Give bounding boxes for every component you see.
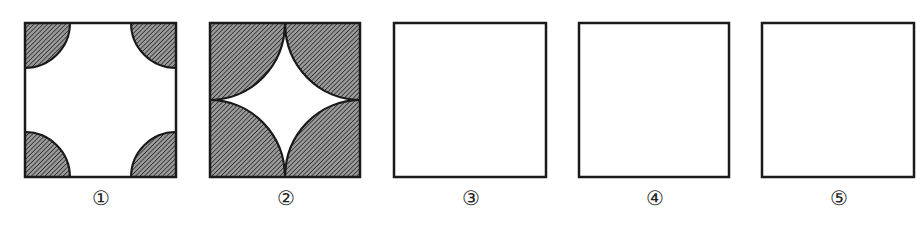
figure-label-5: ⑤ xyxy=(760,186,918,210)
figure-panel-4: ④ xyxy=(577,0,737,229)
figure-label-3: ③ xyxy=(392,186,550,210)
square-figure-3 xyxy=(392,21,550,179)
figure-panel-3: ③ xyxy=(392,0,552,229)
figure-panel-5: ⑤ xyxy=(760,0,920,229)
figure-label-4: ④ xyxy=(577,186,733,210)
square-figure-4 xyxy=(577,21,733,179)
figure-label-1: ① xyxy=(23,186,179,210)
square-figure-5 xyxy=(760,21,918,179)
figure-panel-2: ② xyxy=(208,0,368,229)
square-figure-2 xyxy=(208,21,364,179)
square-figure-1 xyxy=(23,21,179,179)
figure-label-2: ② xyxy=(208,186,364,210)
figure-panel-1: ① xyxy=(23,0,183,229)
